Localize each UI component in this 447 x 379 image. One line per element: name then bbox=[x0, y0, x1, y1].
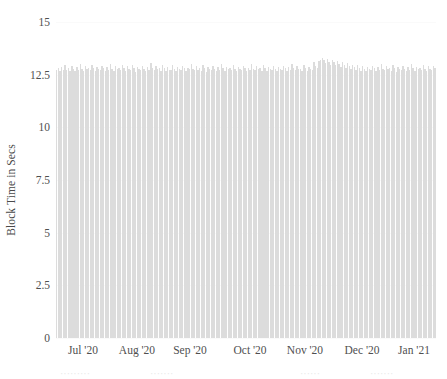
x-axis-tick-labels: Jul '20Aug '20Sep '20Oct '20Nov '20Dec '… bbox=[0, 344, 447, 362]
x-tick-label: Nov '20 bbox=[287, 344, 323, 356]
y-tick-label: 5 bbox=[22, 227, 50, 239]
block-time-bar-chart: Block Time in Secs 02.557.51012.515 Jul … bbox=[0, 0, 447, 379]
y-tick-label: 0 bbox=[22, 332, 50, 344]
x-tick-label: Oct '20 bbox=[233, 344, 266, 356]
footer-text-fragment: ······· bbox=[150, 371, 173, 379]
y-tick-label: 10 bbox=[22, 121, 50, 133]
footer-cropped-strip: ····························· bbox=[0, 371, 447, 379]
bars-layer bbox=[56, 0, 436, 379]
y-tick-label: 12.5 bbox=[22, 69, 50, 81]
y-tick-label: 15 bbox=[22, 16, 50, 28]
y-tick-label: 7.5 bbox=[22, 174, 50, 186]
y-axis-title: Block Time in Secs bbox=[0, 0, 22, 379]
y-tick-label: 2.5 bbox=[22, 279, 50, 291]
x-tick-label: Jul '20 bbox=[68, 344, 98, 356]
footer-text-fragment: ······· bbox=[370, 371, 393, 379]
bar bbox=[434, 68, 435, 338]
x-tick-label: Dec '20 bbox=[345, 344, 380, 356]
y-axis-title-label: Block Time in Secs bbox=[5, 144, 17, 236]
footer-text-fragment: ······ bbox=[300, 371, 320, 379]
footer-text-fragment: ········· bbox=[60, 371, 90, 379]
plot-area bbox=[56, 0, 436, 379]
x-tick-label: Sep '20 bbox=[173, 344, 207, 356]
x-tick-label: Jan '21 bbox=[398, 344, 430, 356]
y-axis-tick-labels: 02.557.51012.515 bbox=[22, 0, 50, 379]
x-tick-label: Aug '20 bbox=[119, 344, 155, 356]
